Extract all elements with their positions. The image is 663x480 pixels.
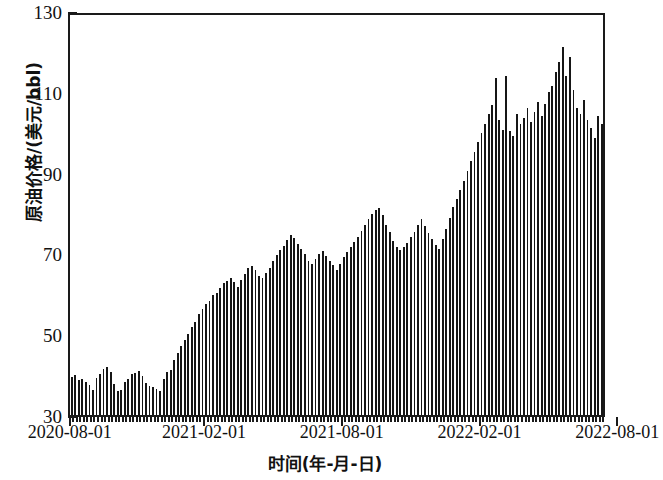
bar bbox=[488, 114, 490, 415]
bar bbox=[509, 131, 511, 415]
bar bbox=[131, 374, 133, 415]
bar bbox=[96, 378, 98, 415]
y-axis-tick-label: 90 bbox=[0, 165, 62, 184]
bar bbox=[283, 246, 285, 415]
bar bbox=[361, 231, 363, 415]
bar bbox=[516, 114, 518, 415]
bar bbox=[565, 76, 567, 415]
y-axis-tick-label: 50 bbox=[0, 326, 62, 345]
bar bbox=[156, 389, 158, 415]
bar bbox=[364, 225, 366, 415]
x-axis-minor-tick bbox=[570, 417, 572, 422]
bar bbox=[290, 235, 292, 415]
x-axis-minor-tick bbox=[578, 417, 580, 422]
bar bbox=[286, 240, 288, 415]
x-axis-minor-tick bbox=[182, 417, 184, 422]
x-axis-minor-tick bbox=[585, 417, 587, 422]
x-axis-minor-tick bbox=[214, 417, 216, 422]
bar bbox=[534, 112, 536, 415]
x-axis-minor-tick bbox=[76, 417, 78, 422]
bar bbox=[421, 219, 423, 415]
x-axis-minor-tick bbox=[175, 417, 177, 422]
x-axis-minor-tick bbox=[426, 417, 428, 422]
bar bbox=[149, 386, 151, 415]
x-axis-minor-tick bbox=[433, 417, 435, 422]
x-axis-minor-tick bbox=[390, 417, 392, 422]
bar bbox=[339, 264, 341, 416]
x-axis-minor-tick bbox=[486, 417, 488, 422]
x-axis-minor-tick bbox=[154, 417, 156, 422]
bar bbox=[163, 379, 165, 415]
x-axis-minor-tick bbox=[574, 417, 576, 422]
bar bbox=[159, 391, 161, 415]
bar bbox=[459, 190, 461, 415]
x-axis-minor-tick bbox=[542, 417, 544, 422]
x-axis-minor-tick bbox=[161, 417, 163, 422]
x-axis-minor-tick bbox=[450, 417, 452, 422]
x-axis-minor-tick bbox=[588, 417, 590, 422]
x-axis-minor-tick bbox=[429, 417, 431, 422]
x-axis-minor-tick bbox=[143, 417, 145, 422]
x-axis-minor-tick bbox=[408, 417, 410, 422]
x-axis-minor-tick bbox=[305, 417, 307, 422]
x-axis-minor-tick bbox=[274, 417, 276, 422]
x-axis-minor-tick bbox=[482, 417, 484, 422]
x-axis-minor-tick bbox=[245, 417, 247, 422]
x-axis-minor-tick bbox=[348, 417, 350, 422]
x-axis-minor-tick bbox=[235, 417, 237, 422]
bar bbox=[537, 102, 539, 415]
x-axis-minor-tick bbox=[397, 417, 399, 422]
x-axis-title: 时间(年-月-日) bbox=[0, 450, 650, 475]
bar bbox=[357, 237, 359, 415]
x-axis-minor-tick bbox=[344, 417, 346, 422]
x-axis-minor-tick bbox=[496, 417, 498, 422]
x-axis-minor-tick bbox=[560, 417, 562, 422]
x-axis-minor-tick bbox=[323, 417, 325, 422]
bar bbox=[594, 138, 596, 415]
x-axis-tick-label: 2022-02-01 bbox=[410, 421, 550, 443]
x-axis-minor-tick bbox=[122, 417, 124, 422]
bar bbox=[127, 379, 129, 415]
x-axis-minor-tick bbox=[525, 417, 527, 422]
x-axis-minor-tick bbox=[249, 417, 251, 422]
x-axis-minor-tick bbox=[362, 417, 364, 422]
x-axis-minor-tick bbox=[164, 417, 166, 422]
x-axis-minor-tick bbox=[454, 417, 456, 422]
bar bbox=[279, 250, 281, 415]
x-axis-minor-tick bbox=[277, 417, 279, 422]
x-axis-minor-tick bbox=[217, 417, 219, 422]
bar bbox=[392, 241, 394, 415]
x-axis-minor-tick bbox=[528, 417, 530, 422]
x-axis-minor-tick bbox=[489, 417, 491, 422]
bar bbox=[226, 281, 228, 415]
bar bbox=[389, 232, 391, 415]
bar bbox=[187, 334, 189, 415]
x-axis-minor-tick bbox=[401, 417, 403, 422]
bar bbox=[583, 100, 585, 415]
bar bbox=[103, 369, 105, 415]
bar bbox=[180, 346, 182, 415]
x-axis-minor-tick bbox=[592, 417, 594, 422]
x-axis-minor-tick bbox=[270, 417, 272, 422]
bar bbox=[403, 247, 405, 415]
x-axis-minor-tick bbox=[532, 417, 534, 422]
x-axis-minor-tick bbox=[263, 417, 265, 422]
x-axis-tick-label: 2021-08-01 bbox=[272, 421, 412, 443]
x-axis-minor-tick bbox=[111, 417, 113, 422]
bar bbox=[315, 259, 317, 415]
bar bbox=[194, 322, 196, 415]
bar bbox=[255, 270, 257, 415]
x-axis-minor-tick bbox=[507, 417, 509, 422]
bar bbox=[580, 114, 582, 415]
bar bbox=[523, 118, 525, 415]
bar bbox=[233, 282, 235, 415]
x-axis-minor-tick bbox=[298, 417, 300, 422]
bar bbox=[212, 295, 214, 415]
x-axis-minor-tick bbox=[373, 417, 375, 422]
x-axis-minor-tick bbox=[457, 417, 459, 422]
x-axis-minor-tick bbox=[129, 417, 131, 422]
x-axis-minor-tick bbox=[210, 417, 212, 422]
x-axis-minor-tick bbox=[295, 417, 297, 422]
bar bbox=[219, 288, 221, 415]
x-axis-minor-tick bbox=[337, 417, 339, 422]
